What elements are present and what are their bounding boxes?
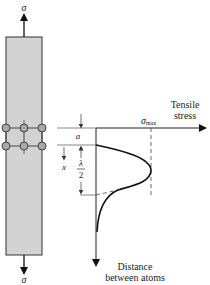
half-wavelength-numerator: λ: [78, 158, 83, 168]
atom: [2, 142, 10, 150]
horizontal-axis-label-line1: Tensile: [171, 99, 200, 110]
atom: [38, 142, 46, 150]
atom: [20, 124, 28, 132]
bottom-force-label: σ: [22, 274, 28, 285]
stress-curve: [96, 145, 151, 232]
horizontal-axis-label-line2: stress: [174, 110, 196, 121]
gap-label: a: [76, 131, 81, 141]
atom: [38, 124, 46, 132]
vertical-axis-label-line1: Distance: [118, 261, 154, 272]
half-wavelength-denominator: 2: [79, 170, 84, 180]
top-force-label: σ: [22, 2, 28, 13]
atom: [2, 124, 10, 132]
displacement-label: x: [61, 162, 66, 172]
sigma-max-label: σmax: [141, 115, 156, 126]
atom: [20, 142, 28, 150]
tensile-stress-diagram: σ σ a x λ 2 σmax Tensile stress Distance…: [0, 0, 210, 285]
vertical-axis-label-line2: between atoms: [105, 272, 165, 283]
